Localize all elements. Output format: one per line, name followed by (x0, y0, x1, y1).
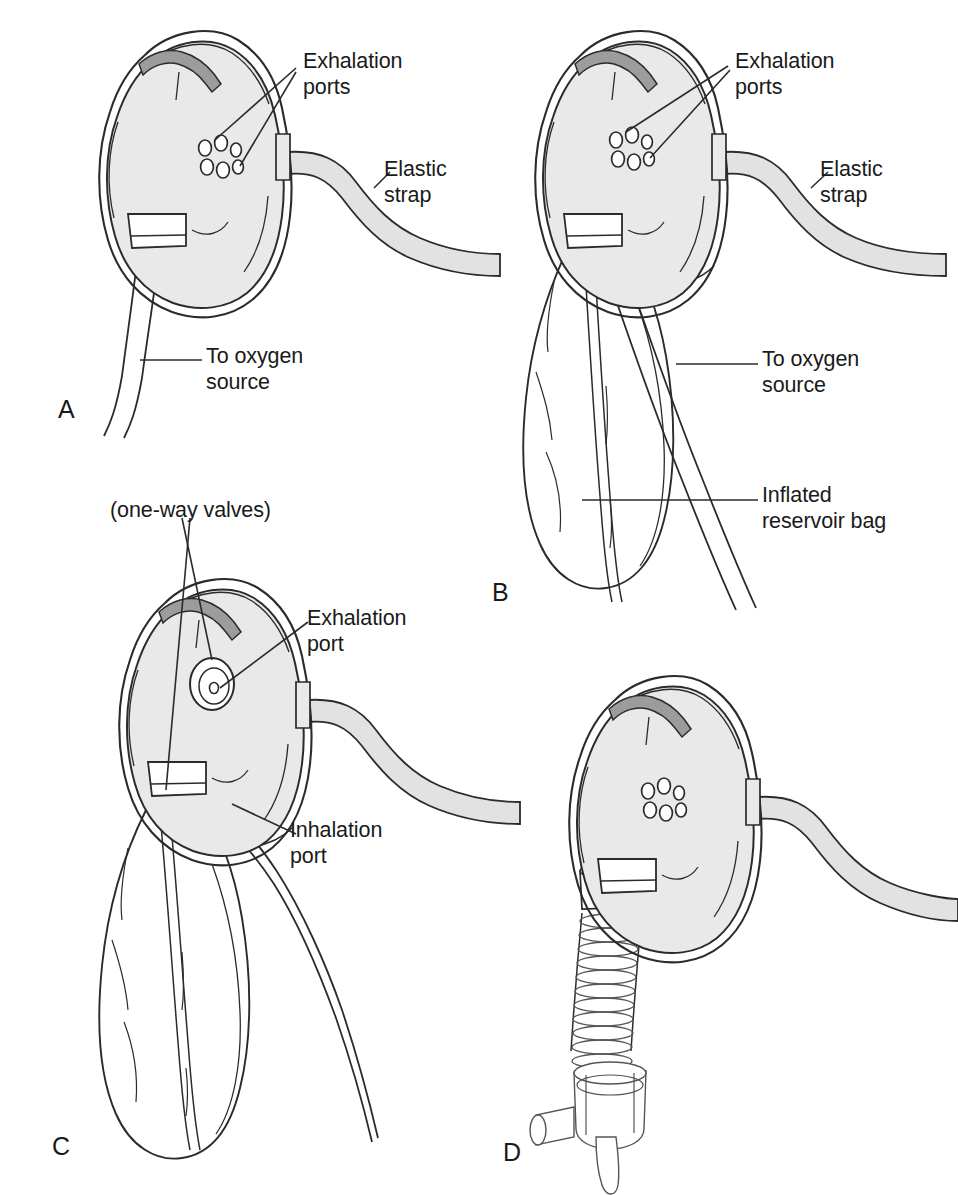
panel-letter-a: A (58, 395, 75, 424)
illustration-canvas (0, 0, 958, 1195)
elastic-strap (758, 797, 958, 921)
label-elastic-strap-b: Elastic strap (820, 157, 883, 208)
label-exhalation-ports-a: Exhalation ports (303, 49, 402, 100)
panel-letter-d: D (503, 1138, 521, 1167)
elastic-strap (308, 700, 520, 824)
label-to-oxygen-source-a: To oxygen source (206, 344, 303, 395)
label-exhalation-port-c: Exhalation port (307, 606, 406, 657)
exhalation-valve-disc (190, 658, 234, 710)
label-to-oxygen-source-b: To oxygen source (762, 347, 859, 398)
label-exhalation-ports-b: Exhalation ports (735, 49, 834, 100)
oxygen-mask-figure: Exhalation ports Elastic strap To oxygen… (0, 0, 958, 1195)
panel-letter-b: B (492, 578, 509, 607)
mask-body (99, 31, 291, 317)
panel-letter-c: C (52, 1132, 70, 1161)
label-inflated-reservoir-bag-b: Inflated reservoir bag (762, 483, 886, 534)
venturi-adapter (530, 1062, 646, 1194)
label-inhalation-port-c: Inhalation port (290, 818, 382, 869)
panel-d-illustration (530, 676, 958, 1194)
label-elastic-strap-a: Elastic strap (384, 157, 447, 208)
label-one-way-valves-c: (one-way valves) (110, 498, 271, 524)
